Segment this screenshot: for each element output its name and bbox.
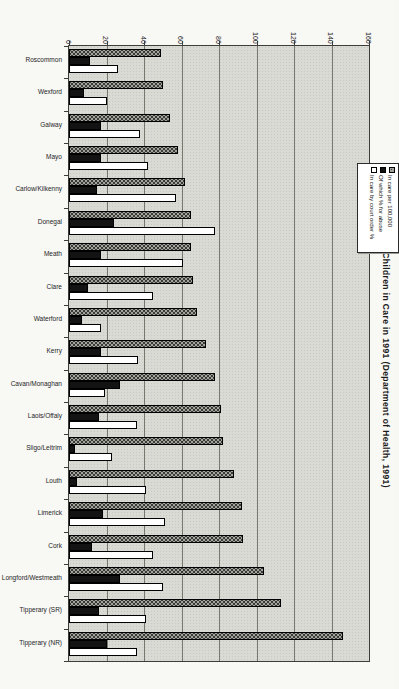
bar-black bbox=[69, 57, 90, 65]
bar-white bbox=[69, 324, 101, 332]
bar-gray-hatched bbox=[69, 243, 191, 251]
value-axis-tick bbox=[144, 41, 145, 45]
category-axis-tick bbox=[64, 467, 68, 468]
bar-gray-hatched bbox=[69, 437, 223, 445]
bar-black bbox=[69, 607, 99, 615]
bar-group-meath bbox=[69, 240, 369, 272]
bar-white bbox=[69, 486, 146, 494]
category-label: Louth bbox=[46, 478, 62, 485]
bar-black bbox=[69, 89, 84, 97]
white-swatch-icon bbox=[371, 167, 377, 173]
category-axis-labels: RoscommonWexfordGalwayMayoCarlow/Kilkenn… bbox=[0, 45, 64, 660]
bar-group-limerick bbox=[69, 499, 369, 531]
bar-white bbox=[69, 162, 148, 170]
category-axis-tick bbox=[64, 175, 68, 176]
bar-gray-hatched bbox=[69, 81, 163, 89]
bar-gray-hatched bbox=[69, 276, 193, 284]
bar-gray-hatched bbox=[69, 178, 185, 186]
bar-white bbox=[69, 292, 153, 300]
category-axis-tick bbox=[64, 661, 68, 662]
category-label: Waterford bbox=[34, 316, 62, 323]
value-axis-tick-label: 20 bbox=[102, 36, 109, 44]
bar-gray-hatched bbox=[69, 308, 197, 316]
category-axis-tick bbox=[64, 111, 68, 112]
bar-white bbox=[69, 583, 163, 591]
bar-white bbox=[69, 551, 153, 559]
category-axis-tick bbox=[64, 596, 68, 597]
bar-gray-hatched bbox=[69, 599, 281, 607]
bar-white bbox=[69, 453, 112, 461]
bar-black bbox=[69, 186, 97, 194]
category-axis-tick bbox=[64, 434, 68, 435]
category-axis-tick bbox=[64, 564, 68, 565]
category-label: Cork bbox=[48, 542, 62, 549]
bar-group-longford-westmeath bbox=[69, 564, 369, 596]
category-label: Sligo/Leitrim bbox=[26, 445, 62, 452]
plot-area: In care per 100,000 Of which % for abuse… bbox=[68, 45, 370, 662]
bar-black bbox=[69, 381, 120, 389]
bar-black bbox=[69, 640, 107, 648]
category-axis-tick bbox=[64, 208, 68, 209]
bar-white bbox=[69, 227, 215, 235]
bar-black bbox=[69, 251, 101, 259]
category-axis-tick bbox=[64, 532, 68, 533]
value-axis-tick bbox=[219, 41, 220, 45]
bar-white bbox=[69, 421, 137, 429]
value-axis-tick bbox=[257, 41, 258, 45]
bar-group-galway bbox=[69, 111, 369, 143]
bar-black bbox=[69, 122, 101, 130]
bar-white bbox=[69, 648, 137, 656]
category-label: Mayo bbox=[46, 154, 62, 161]
category-axis-tick bbox=[64, 143, 68, 144]
legend-label: In care per 100,000 bbox=[387, 175, 393, 227]
category-axis-tick bbox=[64, 370, 68, 371]
bar-black bbox=[69, 316, 82, 324]
value-axis-tick bbox=[332, 41, 333, 45]
bar-white bbox=[69, 97, 107, 105]
category-label: Meath bbox=[44, 251, 62, 258]
bar-group-wexford bbox=[69, 78, 369, 110]
value-axis-tick-label: 160 bbox=[365, 32, 372, 44]
bar-gray-hatched bbox=[69, 114, 170, 122]
category-axis-tick bbox=[64, 46, 68, 47]
legend-label: Of which % for abuse bbox=[378, 175, 384, 232]
category-label: Limerick bbox=[38, 510, 62, 517]
gray-hatched-swatch-icon bbox=[389, 167, 395, 173]
legend-label: In care by court order % bbox=[369, 175, 375, 239]
category-axis-tick bbox=[64, 78, 68, 79]
bar-group-waterford bbox=[69, 305, 369, 337]
bar-group-donegal bbox=[69, 208, 369, 240]
bar-black bbox=[69, 154, 101, 162]
bar-black bbox=[69, 543, 92, 551]
bar-gray-hatched bbox=[69, 340, 206, 348]
category-axis-tick bbox=[64, 402, 68, 403]
bar-black bbox=[69, 413, 99, 421]
bar-black bbox=[69, 575, 120, 583]
bar-black bbox=[69, 445, 75, 453]
value-axis-tick-label: 100 bbox=[252, 32, 259, 44]
value-axis-tick-label: 0 bbox=[65, 40, 72, 44]
legend-item-court-order-pct: In care by court order % bbox=[368, 167, 376, 249]
bar-group-clare bbox=[69, 273, 369, 305]
black-swatch-icon bbox=[380, 167, 386, 173]
bar-gray-hatched bbox=[69, 567, 264, 575]
legend-item-abuse-pct: Of which % for abuse bbox=[378, 167, 386, 249]
bar-gray-hatched bbox=[69, 535, 243, 543]
value-axis-tick bbox=[182, 41, 183, 45]
category-label: Galway bbox=[40, 121, 62, 128]
bar-gray-hatched bbox=[69, 211, 191, 219]
bar-group-mayo bbox=[69, 143, 369, 175]
bar-gray-hatched bbox=[69, 502, 242, 510]
category-label: Tipperary (SR) bbox=[20, 607, 62, 614]
bar-black bbox=[69, 284, 88, 292]
value-axis-tick-label: 40 bbox=[140, 36, 147, 44]
category-label: Clare bbox=[46, 283, 62, 290]
value-axis-labels: 020406080100120140160 bbox=[68, 18, 368, 45]
bar-black bbox=[69, 348, 101, 356]
bar-gray-hatched bbox=[69, 146, 178, 154]
category-label: Laois/Offaly bbox=[28, 413, 62, 420]
bar-black bbox=[69, 219, 114, 227]
legend-item-in-care-per-100000: In care per 100,000 bbox=[387, 167, 395, 249]
bar-gray-hatched bbox=[69, 405, 221, 413]
